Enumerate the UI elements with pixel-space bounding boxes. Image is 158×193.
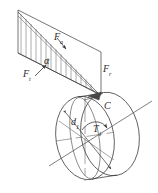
figure-canvas: Fa Ft Fr α C T1 d1 [0,0,158,193]
disk-horizontal-centerline [56,132,116,141]
label-point-c: C [104,101,111,111]
label-force-tangential: Ft [23,69,31,81]
label-angle-alpha: α [44,56,49,66]
diagram-vector-graphic [0,0,158,193]
force-tangential-arrow [35,65,46,76]
axes-group [49,96,152,181]
label-force-radial: Fr [103,64,112,76]
label-diameter: d1 [71,117,79,129]
label-torque: T1 [93,124,102,136]
label-force-axial: Fa [54,32,63,44]
load-panel-outline [18,10,101,95]
point-c-wedge [88,92,101,100]
load-triangle-inner-edge [18,16,97,94]
load-panel-group [18,10,101,95]
